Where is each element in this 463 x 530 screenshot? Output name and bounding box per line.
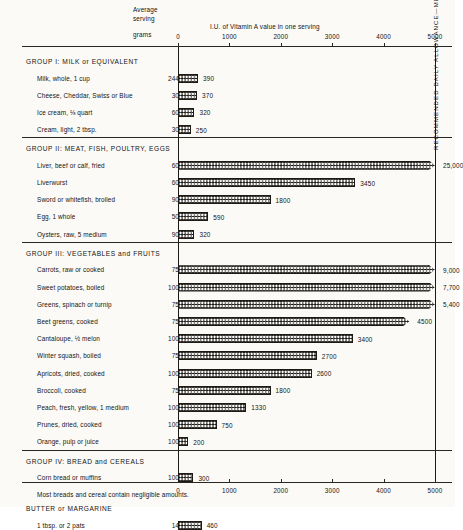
food-label: Cantaloupe, ½ melon	[37, 335, 100, 342]
serving-grams: 30	[133, 126, 179, 133]
chart-subtitle: I.U. of Vitamin A value in one serving	[210, 23, 320, 30]
food-label: Oysters, raw, 5 medium	[37, 231, 107, 238]
value-bar[interactable]	[178, 125, 191, 134]
value-bar[interactable]	[178, 369, 312, 378]
food-label: Egg, 1 whole	[37, 213, 75, 220]
food-label: Milk, whole, 1 cup	[37, 75, 90, 82]
serving-grams: 75	[133, 387, 179, 394]
food-label: Liver, beef or calf, fried	[37, 162, 105, 169]
axis-tick	[281, 43, 282, 47]
axis-tick-label: 2000	[273, 487, 288, 494]
top-axis-line	[22, 46, 452, 47]
serving-grams: 60	[133, 109, 179, 116]
value-bar[interactable]	[178, 521, 202, 530]
axis-tick-label: 4000	[376, 487, 391, 494]
value-bar[interactable]	[178, 334, 353, 343]
value-bar[interactable]	[178, 161, 435, 170]
value-label: 5,400	[443, 301, 460, 308]
axis-tick-label: 3000	[325, 487, 340, 494]
value-bar[interactable]	[178, 300, 435, 309]
average-serving-line2: serving	[133, 15, 155, 22]
value-label: 460	[207, 522, 218, 529]
axis-tick	[384, 479, 385, 483]
value-bar[interactable]	[178, 420, 217, 429]
serving-grams: 100	[133, 421, 179, 428]
serving-grams: 75	[133, 301, 179, 308]
axis-tick	[229, 43, 230, 47]
value-bar[interactable]	[178, 265, 435, 274]
serving-grams: 100	[133, 284, 179, 291]
value-label: 1330	[251, 404, 266, 411]
value-bar[interactable]	[178, 108, 194, 117]
value-bar[interactable]	[178, 230, 194, 239]
axis-tick-label: 3000	[325, 33, 340, 40]
group-header: GROUP I: MILK or EQUIVALENT	[26, 58, 138, 65]
serving-grams: 50	[133, 213, 179, 220]
group-note: Most breads and cereal contain negligibl…	[37, 491, 189, 498]
value-bar[interactable]	[178, 195, 271, 204]
value-bar[interactable]	[178, 386, 271, 395]
axis-tick-label: 2000	[273, 33, 288, 40]
serving-grams: 100	[133, 404, 179, 411]
food-label: Peach, fresh, yellow, 1 medium	[37, 404, 129, 411]
axis-tick-label: 1000	[222, 33, 237, 40]
value-bar[interactable]	[178, 91, 197, 100]
value-bar[interactable]	[178, 178, 355, 187]
value-label: 2700	[322, 353, 337, 360]
serving-grams: 75	[133, 318, 179, 325]
axis-tick-label: 1000	[222, 487, 237, 494]
food-label: Sword or whitefish, broiled	[37, 196, 115, 203]
value-bar[interactable]	[178, 473, 193, 482]
axis-tick-label: 0	[176, 33, 180, 40]
value-label: 300	[198, 475, 209, 482]
group-separator	[22, 137, 452, 138]
value-label: 250	[196, 127, 207, 134]
value-bar[interactable]	[178, 212, 208, 221]
average-serving-line1: Average	[133, 6, 158, 13]
food-label: Ice cream, ⅛ quart	[37, 109, 92, 116]
value-label: 320	[199, 109, 210, 116]
value-bar[interactable]	[178, 403, 246, 412]
value-bar[interactable]	[178, 351, 317, 360]
axis-tick	[229, 479, 230, 483]
food-label: Beet greens, cooked	[37, 318, 98, 325]
serving-grams: 100	[133, 474, 179, 481]
serving-grams: 100	[133, 438, 179, 445]
rda-axis-label: RECOMMENDED DAILY ALLOWANCE—MEN AND WOME…	[432, 0, 439, 150]
value-label: 1800	[276, 197, 291, 204]
axis-tick-label: 4000	[376, 33, 391, 40]
value-label: 590	[213, 214, 224, 221]
food-label: Cream, light, 2 tbsp.	[37, 126, 97, 133]
food-label: Liverwurst	[37, 179, 67, 186]
value-bar[interactable]	[178, 437, 188, 446]
value-label: 9,000	[443, 267, 460, 274]
axis-tick	[384, 43, 385, 47]
axis-tick	[332, 479, 333, 483]
food-label: 1 tbsp. or 2 pats	[37, 522, 85, 529]
value-label: 25,000	[443, 162, 463, 169]
serving-grams: 60	[133, 179, 179, 186]
value-label: 370	[202, 92, 213, 99]
group-header: GROUP III: VEGETABLES and FRUITS	[26, 250, 160, 257]
serving-grams: 90	[133, 196, 179, 203]
serving-grams: 14	[133, 522, 179, 529]
value-bar[interactable]	[178, 317, 409, 326]
group-header: BUTTER or MARGARINE	[26, 505, 112, 512]
food-label: Greens, spinach or turnip	[37, 301, 112, 308]
value-label: 3450	[360, 180, 375, 187]
axis-tick-label: 5000	[428, 487, 443, 494]
value-bar[interactable]	[178, 74, 198, 83]
group-header: GROUP IV: BREAD and CEREALS	[26, 458, 145, 465]
value-label: 320	[199, 231, 210, 238]
group-separator	[22, 450, 452, 451]
serving-grams: 75	[133, 266, 179, 273]
value-bar[interactable]	[178, 283, 435, 292]
serving-grams: 100	[133, 335, 179, 342]
value-label: 390	[203, 75, 214, 82]
food-label: Cheese, Cheddar, Swiss or Blue	[37, 92, 133, 99]
food-label: Carrots, raw or cooked	[37, 266, 104, 273]
serving-grams: 60	[133, 162, 179, 169]
serving-grams: 90	[133, 231, 179, 238]
serving-grams: 244	[133, 75, 179, 82]
